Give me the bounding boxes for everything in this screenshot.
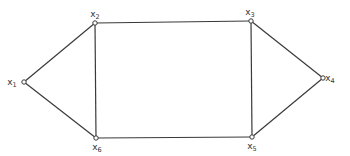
label-subscript: 4 [331, 77, 335, 85]
edge-x2-x6 [95, 23, 96, 138]
labels-group: x1x2x3x4x5x6 [7, 7, 334, 154]
node-x5 [250, 135, 254, 139]
label-subscript: 6 [98, 146, 102, 154]
node-x2 [93, 21, 97, 25]
label-subscript: 2 [96, 13, 100, 21]
label-subscript: 5 [253, 145, 257, 153]
node-x3 [249, 19, 253, 23]
label-x2: x2 [90, 9, 99, 21]
label-x1: x1 [7, 77, 16, 89]
edge-x2-x3 [95, 21, 251, 23]
edge-x3-x4 [251, 21, 323, 78]
edge-x1-x2 [24, 23, 95, 82]
label-subscript: 3 [251, 11, 255, 19]
edge-x4-x5 [252, 78, 323, 137]
label-x5: x5 [247, 141, 256, 153]
label-x6: x6 [92, 142, 101, 154]
edge-x6-x5 [96, 137, 252, 138]
edge-x1-x6 [24, 82, 96, 138]
label-x3: x3 [245, 7, 254, 19]
edge-x3-x5 [251, 21, 252, 137]
label-subscript: 1 [13, 81, 17, 89]
label-x4: x4 [325, 73, 334, 85]
node-x1 [22, 80, 26, 84]
nodes-group [22, 19, 325, 140]
edges-group [24, 21, 323, 138]
node-x6 [94, 136, 98, 140]
graph-diagram: x1x2x3x4x5x6 [0, 0, 350, 156]
